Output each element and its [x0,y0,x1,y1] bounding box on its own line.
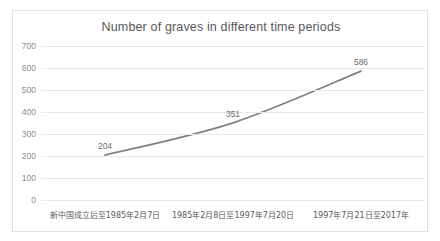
y-axis-tick-label: 200 [22,151,36,161]
y-axis-tick-label: 400 [22,107,36,117]
gridline: 300 [41,134,425,135]
y-axis-tick-label: 0 [31,195,36,205]
gridline: 200 [41,156,425,157]
data-point-label: 586 [354,57,368,67]
y-axis-tick-label: 100 [22,173,36,183]
gridline: 0 [41,200,425,201]
y-axis-tick-label: 700 [22,41,36,51]
y-axis-tick-label: 500 [22,85,36,95]
plot-area: 7006005004003002001000204351586 [41,46,425,200]
gridline: 500 [41,90,425,91]
gridline: 700 [41,46,425,47]
data-point-label: 351 [226,109,240,119]
gridline: 600 [41,68,425,69]
x-axis-tick-label: 新中国成立后至1985年2月7日 [50,209,161,220]
x-axis-tick-label: 1997年7月21日至2017年 [313,209,409,220]
line-series [41,46,425,200]
chart-title: Number of graves in different time perio… [13,20,429,34]
x-axis-labels: 新中国成立后至1985年2月7日1985年2月8日至1997年7月20日1997… [41,203,425,225]
x-axis-tick-label: 1985年2月8日至1997年7月20日 [172,209,294,220]
y-axis-tick-label: 600 [22,63,36,73]
chart-container: Number of graves in different time perio… [12,10,428,232]
gridline: 100 [41,178,425,179]
data-point-label: 204 [98,141,112,151]
y-axis-tick-label: 300 [22,129,36,139]
